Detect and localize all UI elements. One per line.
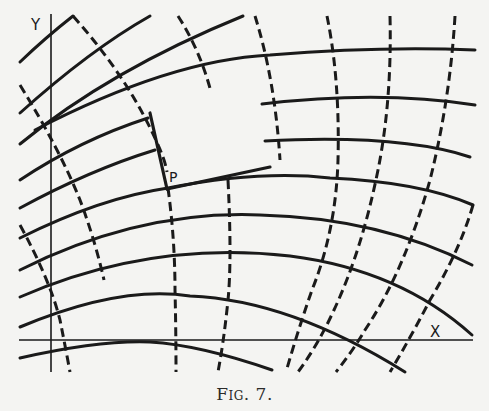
solid-curve <box>20 252 472 335</box>
solid-curve-family <box>20 16 475 372</box>
solid-curve <box>35 49 475 130</box>
dashed-curve <box>178 16 211 92</box>
dashed-curve <box>218 180 230 372</box>
dashed-curve <box>255 16 280 160</box>
solid-curve <box>20 294 405 372</box>
dashed-curve <box>298 16 390 372</box>
solid-curve <box>20 16 73 62</box>
solid-curve <box>262 97 475 105</box>
solid-curve <box>20 215 472 270</box>
figure-caption: Fig. 7. <box>0 384 489 404</box>
solid-curve <box>20 150 155 208</box>
solid-curve <box>20 342 272 370</box>
orthogonal-curves-diagram <box>0 0 489 411</box>
dashed-curve-family <box>20 16 473 372</box>
x-axis-label: X <box>430 325 440 340</box>
solid-curve <box>20 176 473 238</box>
point-p-label: P <box>169 170 177 184</box>
axes <box>19 14 473 372</box>
y-axis-label: Y <box>31 18 40 33</box>
tangent-line-at-p <box>167 167 270 189</box>
